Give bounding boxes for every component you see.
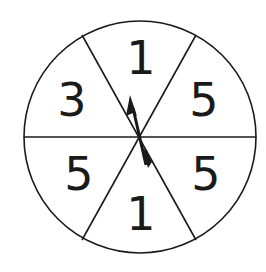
section-lower-left-label: 5 bbox=[64, 147, 93, 201]
spinner: 1 5 5 1 5 3 bbox=[0, 0, 266, 272]
section-lower-right-label: 5 bbox=[191, 147, 220, 201]
section-top-label: 1 bbox=[126, 31, 155, 85]
section-upper-left-label: 3 bbox=[57, 73, 86, 127]
section-bottom-label: 1 bbox=[126, 187, 155, 241]
section-upper-right-label: 5 bbox=[189, 73, 218, 127]
